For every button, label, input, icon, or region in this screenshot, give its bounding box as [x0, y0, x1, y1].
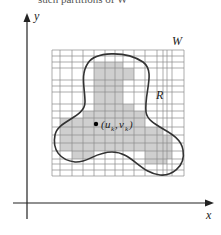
- svg-text:): ): [128, 118, 133, 131]
- x-axis-label: x: [205, 208, 212, 222]
- region-r-label: R: [155, 88, 164, 102]
- sample-point: [94, 122, 98, 126]
- inner-cells-shading: [60, 62, 172, 164]
- x-axis-arrow-icon: [205, 200, 214, 207]
- svg-text:v: v: [119, 118, 124, 130]
- window-w-label: W: [172, 34, 183, 48]
- y-axis-label: y: [33, 9, 40, 23]
- svg-text:,: ,: [115, 118, 118, 130]
- y-axis-arrow-icon: [24, 13, 31, 22]
- region-diagram: y x W R ( u k , v k ): [0, 0, 221, 235]
